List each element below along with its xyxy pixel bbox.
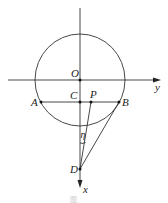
- label-A: A: [30, 96, 38, 108]
- figure-caption: 图: [70, 196, 77, 203]
- point-D: [79, 168, 82, 171]
- label-O: O: [71, 67, 79, 79]
- point-B: [118, 101, 121, 104]
- point-A: [40, 101, 43, 104]
- label-D: D: [69, 163, 78, 175]
- label-B: B: [122, 96, 129, 108]
- point-P: [90, 101, 93, 104]
- label-C: C: [70, 89, 78, 101]
- label-P: P: [89, 88, 97, 100]
- y-axis-label: y: [154, 81, 160, 93]
- geometry-diagram: y x η O A B C P D 图: [0, 0, 168, 203]
- x-axis-label: x: [82, 183, 88, 195]
- point-C: [79, 101, 82, 104]
- x-axis-arrow-icon: [78, 180, 83, 188]
- y-axis: y: [8, 78, 161, 94]
- angle-label: η: [81, 129, 86, 140]
- angle-arc: [80, 143, 86, 144]
